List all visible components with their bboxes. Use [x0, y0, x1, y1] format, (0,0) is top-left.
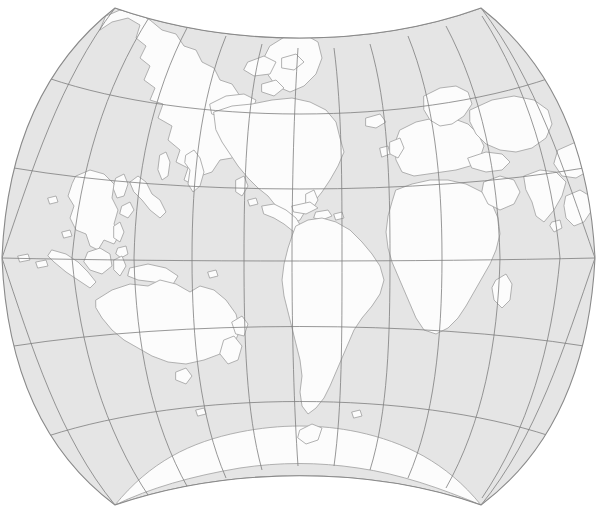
world-map-canvas[interactable]	[0, 0, 597, 514]
land-island-pacific-3	[36, 260, 48, 268]
land-island-southern-2	[196, 408, 206, 416]
land-island-fiji	[208, 270, 218, 278]
world-map-container[interactable]	[0, 0, 597, 514]
land-island-hawaii	[248, 198, 258, 206]
land-island-southern-1	[352, 410, 362, 418]
land-puerto-rico	[334, 212, 344, 220]
land-island-pacific-2	[62, 230, 72, 238]
land-island-pacific-1	[48, 196, 58, 204]
